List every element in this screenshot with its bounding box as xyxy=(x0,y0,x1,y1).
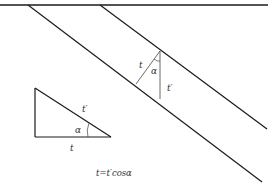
layer-bottom-boundary xyxy=(28,5,262,182)
label-alpha-layer: α xyxy=(151,66,157,76)
label-tprime-layer: t′ xyxy=(167,83,173,93)
label-tprime-triangle: t′ xyxy=(82,104,88,114)
formula-text: t=t′cosα xyxy=(96,168,132,178)
label-t-layer: t xyxy=(139,60,143,70)
angle-arc-layer xyxy=(154,59,160,61)
triangle-hypotenuse xyxy=(35,88,111,137)
angle-arc-triangle xyxy=(87,123,89,137)
label-alpha-triangle: α xyxy=(75,125,81,135)
layer-top-boundary xyxy=(100,5,267,129)
layer-thickness-diagram: t α t′ t′ α t t=t′cosα xyxy=(0,0,275,190)
label-t-triangle: t xyxy=(70,143,74,153)
